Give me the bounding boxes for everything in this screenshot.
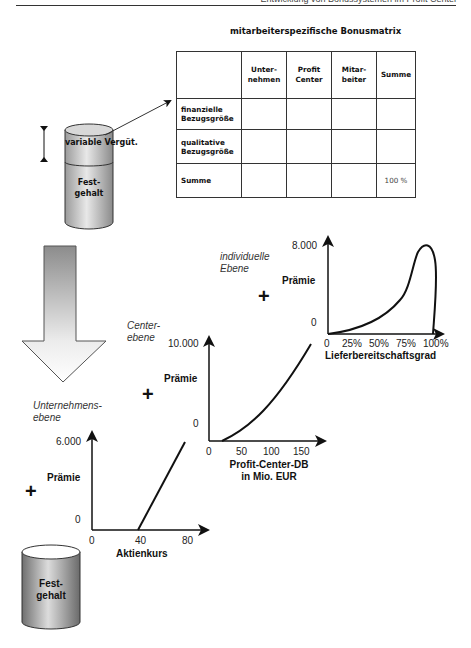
x-axis-label: Profit-Center-DB <box>219 459 319 470</box>
y-tick-zero: 0 <box>311 317 317 328</box>
chart-individual <box>328 238 442 334</box>
y-axis-label: Prämie <box>164 373 197 384</box>
x-tick: 50 <box>236 446 247 457</box>
x-tick: 0 <box>206 446 212 457</box>
fixed-salary-label-bottom: Fest- gehalt <box>22 578 80 602</box>
x-tick: 50% <box>369 338 389 349</box>
plus-icon: + <box>258 285 270 308</box>
fixed-salary-label: Fest- gehalt <box>65 177 113 199</box>
level-label-individual: individuelle Ebene <box>220 251 269 275</box>
y-tick-zero: 0 <box>75 514 81 525</box>
y-tick-max: 8.000 <box>292 240 317 251</box>
y-tick-zero: 0 <box>193 418 199 429</box>
x-tick: 0 <box>324 338 330 349</box>
chart-company <box>92 433 207 530</box>
x-tick: 100 <box>263 446 280 457</box>
pointer-arrow <box>105 101 170 135</box>
x-tick: 100% <box>423 338 449 349</box>
y-axis-label: Prämie <box>47 472 80 483</box>
x-axis-label-unit: in Mio. EUR <box>219 471 319 482</box>
down-arrow-icon <box>22 246 106 382</box>
x-tick: 75% <box>396 338 416 349</box>
x-tick: 0 <box>89 535 95 546</box>
x-tick: 80 <box>182 535 193 546</box>
y-tick-max: 10.000 <box>168 338 199 349</box>
x-axis-label: Aktienkurs <box>116 548 168 559</box>
y-tick-max: 6.000 <box>56 436 81 447</box>
level-label-company: Unternehmens- ebene <box>33 400 102 424</box>
level-label-center: Center- ebene <box>127 320 160 344</box>
plus-icon: + <box>142 383 154 406</box>
chart-center <box>209 338 324 441</box>
x-axis-label: Lieferbereitschaftsgrad <box>325 350 436 361</box>
variable-pay-label: variable Vergüt. <box>65 137 113 148</box>
x-tick: 25% <box>342 338 362 349</box>
diagram-graphics <box>0 0 471 648</box>
y-axis-label: Prämie <box>282 275 315 286</box>
plus-icon: + <box>25 480 37 503</box>
x-tick: 150 <box>293 446 310 457</box>
x-tick: 40 <box>135 535 146 546</box>
range-marker-icon <box>40 126 48 162</box>
